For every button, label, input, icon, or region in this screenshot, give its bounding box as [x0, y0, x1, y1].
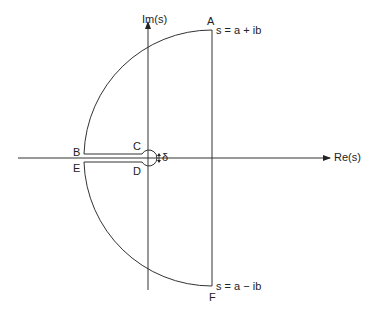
bottom-annotation: s = a − ib	[216, 281, 261, 292]
point-d-label: D	[133, 166, 141, 177]
top-annotation: s = a + ib	[216, 25, 261, 36]
point-b-label: B	[73, 147, 80, 158]
imag-axis-label: Im(s)	[142, 14, 167, 25]
point-f-label: F	[209, 292, 216, 303]
point-c-label: C	[133, 141, 141, 152]
delta-label: δ	[162, 152, 168, 163]
point-a-label: A	[207, 16, 214, 27]
real-axis-label: Re(s)	[334, 152, 361, 163]
contour-diagram	[0, 0, 367, 316]
point-e-label: E	[73, 163, 80, 174]
